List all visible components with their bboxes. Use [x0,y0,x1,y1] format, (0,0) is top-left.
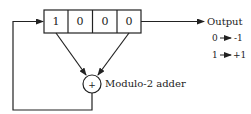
adder-symbol: + [88,80,96,90]
shift-register: 1 0 0 0 [44,10,141,33]
mapping-from-1: 1 [212,50,218,60]
register-cell-3: 0 [102,15,109,28]
register-cell-4: 0 [126,15,133,28]
mapping-to-1: +1 [233,50,246,60]
register-cell-2: 0 [77,15,84,28]
tap-line-cell-4 [98,33,129,75]
feedback-path [13,22,92,111]
mapping-to-0: -1 [234,33,243,43]
tap-line-cell-1 [56,33,86,75]
shift-register-diagram: 1 0 0 0 Output 0 -1 1 +1 + Modulo-2 adde… [0,0,251,114]
mapping-from-0: 0 [212,33,218,43]
adder-label: Modulo-2 adder [105,78,186,89]
modulo-2-adder: + [83,75,101,93]
register-cell-1: 1 [53,15,60,28]
output-label: Output [207,16,243,27]
output-mapping: 0 -1 1 +1 [212,33,246,60]
